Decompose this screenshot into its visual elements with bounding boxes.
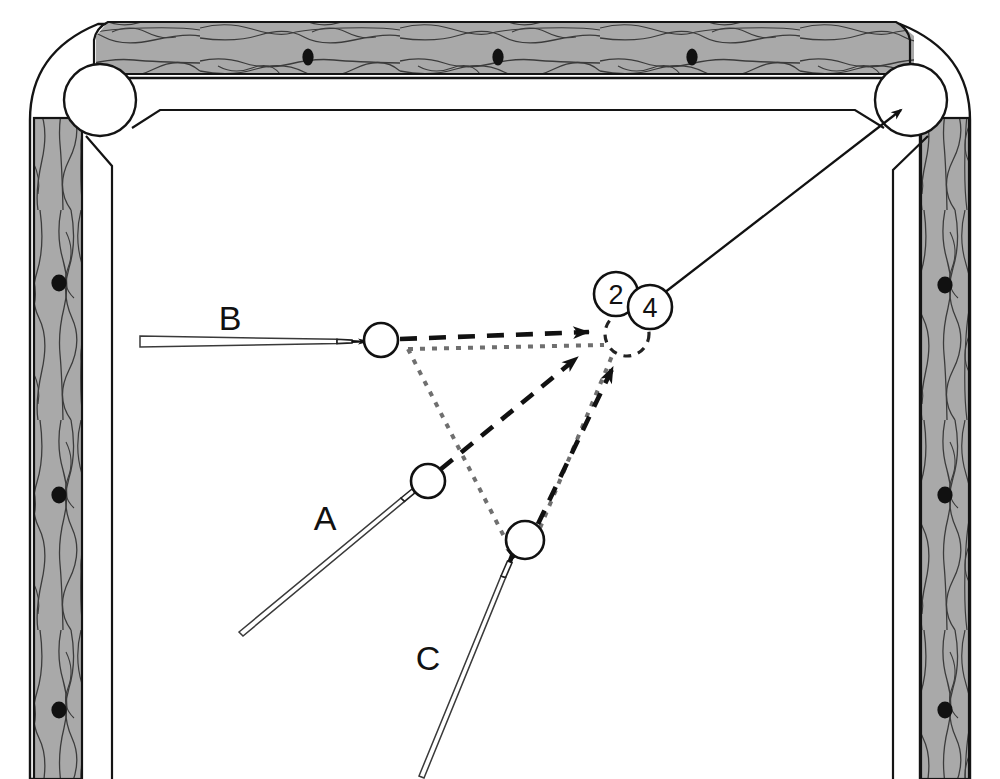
diamond-left-2 <box>51 487 66 504</box>
ghost-line-top <box>408 345 604 349</box>
left-rail <box>34 118 82 779</box>
player-balls <box>364 323 544 559</box>
aim-line-c <box>538 367 613 524</box>
object-ball-2-label: 2 <box>608 280 623 310</box>
diamond-top-3 <box>686 48 697 65</box>
diamond-top-1 <box>302 48 313 65</box>
cue-ball-a <box>411 464 445 498</box>
diamond-left-1 <box>51 275 66 292</box>
pocket-top-right <box>875 64 947 136</box>
table-outer-frame <box>30 24 970 779</box>
object-ball-4-label: 4 <box>642 293 657 323</box>
right-rail <box>921 118 969 779</box>
cue-ball-b <box>364 323 398 357</box>
pot-line-group <box>664 110 901 293</box>
diamond-right-1 <box>937 277 952 294</box>
pot-line-to-pocket <box>664 110 901 293</box>
cue-ball-c <box>506 521 544 559</box>
pocket-top-left <box>64 64 136 136</box>
cushion-boundary <box>86 110 928 779</box>
diamond-top-2 <box>492 48 503 65</box>
ghost-ball-lines <box>408 345 612 552</box>
aim-line-a <box>441 357 578 469</box>
diamond-right-2 <box>937 487 952 504</box>
diagram-canvas: 2 4 B A C <box>0 0 1000 779</box>
object-balls: 2 4 <box>594 272 672 329</box>
cue-label-c: C <box>416 639 441 677</box>
aim-line-b <box>400 332 589 339</box>
rail-diamonds <box>51 48 952 718</box>
cue-stick-b <box>140 336 370 347</box>
pool-table-diagram: 2 4 B A C <box>0 0 1000 779</box>
cue-labels: B A C <box>219 299 441 677</box>
diamond-left-3 <box>51 702 66 719</box>
table-rails <box>34 18 969 779</box>
cue-label-a: A <box>314 499 337 537</box>
diamond-right-3 <box>937 702 952 719</box>
cue-label-b: B <box>219 299 242 337</box>
